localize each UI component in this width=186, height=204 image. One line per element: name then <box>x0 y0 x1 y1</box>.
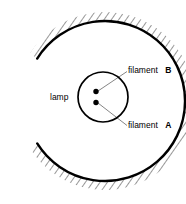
filament-b-dot <box>93 89 98 94</box>
reflector-hatching <box>0 0 186 204</box>
diagram-canvas: lamp filament B filament A <box>0 0 186 204</box>
filament-a-dot <box>93 100 98 105</box>
label-lamp: lamp <box>50 92 69 102</box>
label-filament-a-word: filament <box>128 120 158 130</box>
lamp-bulb-circle <box>78 72 128 122</box>
label-filament-b-id: B <box>165 65 171 75</box>
label-filament-a-id: A <box>165 120 171 130</box>
label-filament-b: filament B <box>128 59 171 76</box>
label-filament-a: filament A <box>128 114 171 131</box>
label-filament-b-word: filament <box>128 65 158 75</box>
lamp-reflector-diagram: lamp filament B filament A <box>0 0 186 204</box>
